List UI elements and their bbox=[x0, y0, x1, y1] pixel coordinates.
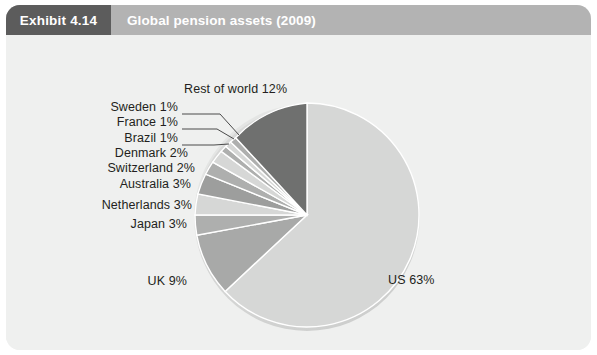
pie-label-us: US 63% bbox=[388, 273, 434, 287]
exhibit-title: Global pension assets (2009) bbox=[111, 5, 591, 35]
pie-chart bbox=[6, 35, 591, 350]
chart-plot-area: Rest of world 12% Sweden 1% France 1% Br… bbox=[6, 35, 591, 350]
pie-label-netherlands: Netherlands 3% bbox=[102, 198, 192, 212]
exhibit-number-tag: Exhibit 4.14 bbox=[6, 5, 111, 35]
pie-label-brazil: Brazil 1% bbox=[124, 131, 178, 145]
pie-label-japan: Japan 3% bbox=[131, 217, 187, 231]
exhibit-panel: Exhibit 4.14 Global pension assets (2009… bbox=[6, 5, 591, 350]
leader-line-sweden bbox=[182, 114, 239, 135]
pie-label-denmark: Denmark 2% bbox=[115, 146, 188, 160]
leader-line-brazil bbox=[182, 144, 229, 145]
pie-label-australia: Australia 3% bbox=[120, 177, 191, 191]
pie-label-rest-of-world: Rest of world 12% bbox=[184, 82, 287, 96]
pie-label-sweden: Sweden 1% bbox=[110, 100, 178, 114]
leader-line-france bbox=[182, 129, 234, 139]
pie-label-uk: UK 9% bbox=[148, 274, 187, 288]
exhibit-title-bar: Exhibit 4.14 Global pension assets (2009… bbox=[6, 5, 591, 35]
pie-label-france: France 1% bbox=[117, 115, 178, 129]
pie-label-switzerland: Switzerland 2% bbox=[107, 161, 195, 175]
